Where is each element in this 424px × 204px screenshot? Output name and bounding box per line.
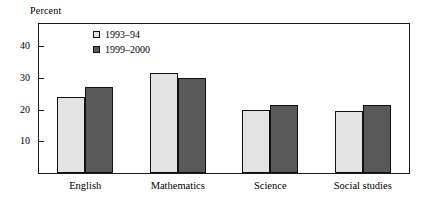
bar-group <box>335 24 391 173</box>
legend: 1993–94 1999–2000 <box>93 28 150 58</box>
bar <box>85 87 113 173</box>
bar-group <box>242 24 298 173</box>
x-axis-label: English <box>39 180 132 191</box>
legend-item: 1993–94 <box>93 28 150 41</box>
legend-swatch-icon <box>93 31 100 38</box>
x-axis-label: Science <box>224 180 317 191</box>
bar-group <box>150 24 206 173</box>
bar <box>150 73 178 173</box>
y-axis-tick-label: 20 <box>0 105 30 115</box>
legend-swatch-icon <box>93 46 100 53</box>
bar <box>270 105 298 173</box>
legend-item: 1999–2000 <box>93 43 150 56</box>
y-axis-tick-label: 40 <box>0 41 30 51</box>
bar <box>335 111 363 173</box>
y-axis-tick-label: 10 <box>0 136 30 146</box>
bar <box>178 78 206 173</box>
bar <box>242 110 270 173</box>
legend-label: 1999–2000 <box>105 45 150 55</box>
bar-chart: Percent 10203040 EnglishMathematicsScien… <box>0 0 424 204</box>
bar <box>363 105 391 173</box>
y-axis-title: Percent <box>30 5 61 16</box>
bar <box>57 97 85 173</box>
legend-label: 1993–94 <box>105 30 140 40</box>
x-axis-label: Mathematics <box>132 180 225 191</box>
x-axis-label: Social studies <box>317 180 410 191</box>
y-axis-tick-label: 30 <box>0 73 30 83</box>
